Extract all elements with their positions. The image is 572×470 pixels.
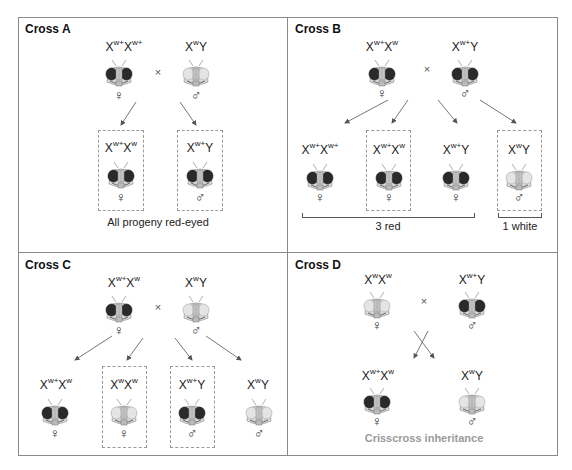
cross-d-progeny-genotype: XwY	[461, 368, 483, 383]
female-symbol-icon: ♀	[114, 88, 125, 102]
cross-b-parent-male-genotype: Xw+Y	[452, 39, 478, 54]
fly-head-red-eye-icon	[441, 164, 471, 192]
cross-d-parent-male-genotype: Xw+Y	[459, 272, 485, 287]
cross-symbol: ×	[421, 295, 427, 307]
male-symbol-icon: ♂	[467, 318, 478, 332]
cross-b-progeny-genotype: Xw+Xw+	[302, 142, 339, 157]
male-symbol-icon: ♂	[191, 88, 202, 102]
fly-head-red-eye-icon	[362, 388, 392, 416]
male-symbol-icon: ♂	[191, 323, 202, 337]
bracket-label-white: 1 white	[503, 220, 538, 232]
female-symbol-icon: ♀	[50, 426, 61, 440]
fly-head-white-eye-icon	[504, 164, 534, 192]
female-symbol-icon: ♀	[114, 323, 125, 337]
female-symbol-icon: ♀	[372, 318, 383, 332]
fly-head-red-eye-icon	[177, 399, 207, 427]
male-symbol-icon: ♂	[254, 426, 265, 440]
female-symbol-icon: ♀	[116, 190, 127, 204]
cross-symbol: ×	[424, 63, 430, 75]
cross-d-parent-female-genotype: XwXw	[364, 272, 392, 287]
cross-c-progeny-genotype: XwY	[247, 377, 269, 392]
cross-a-parent-female-genotype: Xw+Xw+	[106, 39, 143, 54]
female-symbol-icon: ♀	[119, 426, 130, 440]
cross-c-progeny-genotype: XwXw	[110, 377, 138, 392]
fly-head-red-eye-icon	[104, 60, 134, 88]
cross-a-caption: All progeny red-eyed	[107, 216, 209, 228]
fly-head-white-eye-icon	[244, 399, 274, 427]
cross-c-progeny-genotype: Xw+Xw	[40, 377, 72, 392]
cross-d-progeny-genotype: Xw+Xw	[362, 368, 394, 383]
cross-c-progeny-genotype: Xw+Y	[179, 377, 205, 392]
cross-d-caption: Crisscross inheritance	[365, 432, 484, 444]
cross-a-parent-male-genotype: XwY	[185, 39, 207, 54]
male-symbol-icon: ♂	[467, 414, 478, 428]
female-symbol-icon: ♀	[451, 190, 462, 204]
cross-c-parent-male-genotype: XwY	[185, 275, 207, 290]
fly-head-red-eye-icon	[106, 162, 136, 190]
female-symbol-icon: ♀	[315, 190, 326, 204]
cross-c-parent-female-genotype: Xw+Xw	[108, 275, 140, 290]
female-symbol-icon: ♀	[384, 190, 395, 204]
fly-head-white-eye-icon	[457, 388, 487, 416]
fly-head-red-eye-icon	[40, 399, 70, 427]
male-symbol-icon: ♂	[195, 190, 206, 204]
male-symbol-icon: ♂	[187, 426, 198, 440]
cross-c-title: Cross C	[25, 258, 71, 272]
cross-a-title: Cross A	[25, 22, 71, 36]
vertical-divider	[287, 17, 288, 456]
fly-head-red-eye-icon	[305, 164, 335, 192]
female-symbol-icon: ♀	[372, 414, 383, 428]
fly-head-red-eye-icon	[367, 60, 397, 88]
cross-a-progeny-genotype: Xw+Xw	[105, 140, 137, 155]
female-symbol-icon: ♀	[377, 86, 388, 100]
fly-head-white-eye-icon	[109, 399, 139, 427]
cross-b-progeny-genotype: Xw+Y	[443, 142, 469, 157]
fly-head-red-eye-icon	[104, 296, 134, 324]
bracket-label-red: 3 red	[375, 220, 400, 232]
cross-b-title: Cross B	[295, 22, 341, 36]
cross-a-progeny-genotype: Xw+Y	[187, 140, 213, 155]
fly-head-red-eye-icon	[374, 164, 404, 192]
fly-head-red-eye-icon	[450, 60, 480, 88]
fly-head-red-eye-icon	[185, 162, 215, 190]
horizontal-divider	[18, 252, 558, 253]
fly-head-white-eye-icon	[362, 292, 392, 320]
bracket-white	[498, 213, 542, 218]
male-symbol-icon: ♂	[514, 190, 525, 204]
fly-head-white-eye-icon	[181, 60, 211, 88]
cross-b-progeny-genotype: XwY	[508, 142, 530, 157]
cross-b-progeny-genotype: Xw+Xw	[373, 142, 405, 157]
fly-head-red-eye-icon	[457, 292, 487, 320]
cross-symbol: ×	[155, 301, 161, 313]
cross-symbol: ×	[155, 66, 161, 78]
cross-d-title: Cross D	[295, 258, 341, 272]
fly-head-white-eye-icon	[181, 296, 211, 324]
male-symbol-icon: ♂	[460, 86, 471, 100]
cross-b-parent-female-genotype: Xw+Xw	[366, 39, 398, 54]
bracket-red	[302, 213, 475, 218]
